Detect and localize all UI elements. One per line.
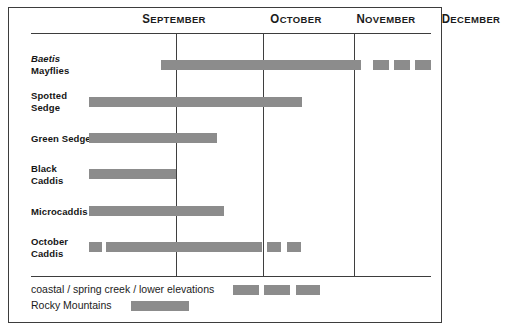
hatch-bar	[161, 60, 361, 70]
row-label-line: Microcaddis	[31, 206, 88, 218]
row-label-line: Caddis	[31, 175, 63, 187]
row-label-line: October	[31, 236, 68, 248]
species-rows: BaetisMayfliesSpottedSedgeGreen SedgeBla…	[9, 8, 441, 322]
row-label-october-caddis: OctoberCaddis	[31, 236, 68, 259]
month-label-december: December	[431, 13, 505, 26]
legend-divider-rule	[31, 276, 431, 277]
row-label-spotted-sedge: SpottedSedge	[31, 90, 67, 113]
legend-swatch	[296, 285, 320, 295]
legend-swatch	[131, 301, 189, 311]
hatch-bar	[373, 60, 389, 70]
hatch-bar	[89, 169, 176, 179]
row-label-microcaddis: Microcaddis	[31, 206, 88, 218]
hatch-bar	[106, 242, 262, 252]
hatch-bar	[287, 242, 301, 252]
row-label-baetis-mayflies: BaetisMayflies	[31, 53, 69, 76]
legend-swatch	[233, 285, 259, 295]
row-label-line: Black	[31, 163, 63, 175]
hatch-bar	[394, 60, 410, 70]
legend-row: coastal / spring creek / lower elevation…	[31, 282, 431, 298]
hatch-bar	[89, 206, 224, 216]
legend-swatch	[264, 285, 290, 295]
row-label-line: Mayflies	[31, 65, 69, 77]
chart-legend: coastal / spring creek / lower elevation…	[31, 282, 431, 314]
hatch-bar	[89, 133, 217, 143]
hatch-bar	[89, 97, 302, 107]
row-label-line: Sedge	[31, 102, 67, 114]
row-label-green-sedge: Green Sedge	[31, 133, 91, 145]
legend-label: coastal / spring creek / lower elevation…	[31, 283, 214, 295]
hatch-bar	[415, 60, 431, 70]
row-label-line: Caddis	[31, 248, 68, 260]
hatch-timing-chart: SeptemberOctoberNovemberDecember BaetisM…	[8, 7, 442, 323]
hatch-bar	[89, 242, 102, 252]
legend-label: Rocky Mountains	[31, 299, 112, 311]
row-label-line: Green Sedge	[31, 133, 91, 145]
row-label-line: Spotted	[31, 90, 67, 102]
row-label-black-caddis: BlackCaddis	[31, 163, 63, 186]
legend-row: Rocky Mountains	[31, 298, 431, 314]
row-label-line: Baetis	[31, 53, 69, 65]
hatch-bar	[267, 242, 281, 252]
